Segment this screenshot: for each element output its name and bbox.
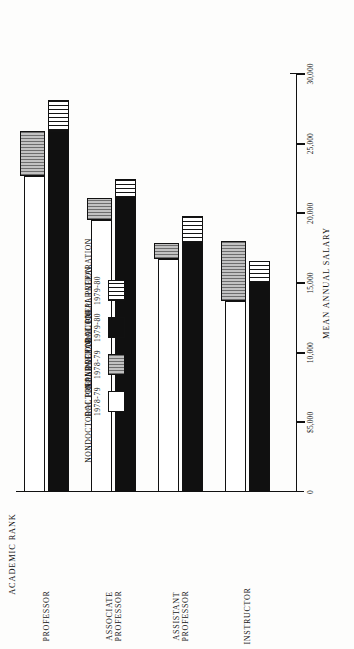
chart-legend: NONDOCTORAL PREPARATION1978-79DOCTORAL P…: [12, 112, 142, 412]
axis-tick: [296, 73, 305, 75]
axis-tick-label: 25,000: [306, 133, 315, 154]
bar-nondoctoral-1978-79: [225, 301, 246, 492]
bar-nondoctoral-1979-80: [182, 243, 203, 492]
category-label-associate-professor: ASSOCIATEPROFESSOR: [105, 556, 123, 649]
category-label-line: PROFESSOR: [114, 556, 123, 649]
category-label-professor: PROFESSOR: [42, 556, 51, 649]
legend-label-line: DOCTORAL PREPARATION: [84, 238, 93, 343]
axis-tick: [296, 491, 304, 492]
axis-tick: [296, 212, 305, 214]
category-label-assistant-professor: ASSISTANTPROFESSOR: [172, 556, 190, 649]
axis-tick-label: 30,000: [306, 63, 315, 84]
bar-doctoral-1978-79: [221, 241, 246, 301]
legend-swatch-white-ruled: [108, 280, 125, 301]
axis-tick: [296, 421, 305, 423]
axis-tick-label: 10,000: [306, 342, 315, 363]
bar-nondoctoral-1978-79: [158, 259, 179, 492]
axis-end-cap: [290, 73, 297, 74]
bar-doctoral-1978-79: [154, 243, 179, 260]
value-axis-title: MEAN ANNUAL SALARY: [322, 227, 331, 339]
axis-tick: [296, 352, 305, 354]
bar-doctoral-1979-80: [182, 216, 203, 242]
bar-doctoral-1979-80: [249, 261, 270, 283]
bar-nondoctoral-1979-80: [249, 283, 270, 492]
category-label-instructor: INSTRUCTOR: [243, 556, 252, 649]
category-label-line: PROFESSOR: [181, 556, 190, 649]
axis-tick-label: 20,000: [306, 203, 315, 224]
legend-swatch-gray-ruled: [108, 354, 125, 375]
legend-label-3: DOCTORAL PREPARATION1979-80: [84, 238, 102, 343]
legend-label-line: 1979-80: [93, 238, 102, 343]
category-label-line: INSTRUCTOR: [243, 556, 252, 649]
category-label-line: ASSOCIATE: [105, 556, 114, 649]
legend-swatch-white: [108, 391, 125, 412]
category-axis-title: ACADEMIC RANK: [8, 494, 17, 614]
category-label-line: ASSISTANT: [172, 556, 181, 649]
legend-swatch-black: [108, 317, 125, 338]
axis-tick-label: $5,000: [306, 412, 315, 433]
axis-tick: [296, 282, 305, 284]
axis-tick-label: 0: [306, 490, 315, 494]
axis-tick-label: 15,000: [306, 272, 315, 293]
category-label-line: PROFESSOR: [42, 556, 51, 649]
axis-tick: [296, 143, 305, 145]
